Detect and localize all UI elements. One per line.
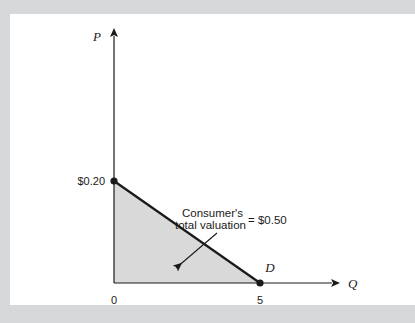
y-tick-label-0: $0.20: [77, 175, 105, 187]
figure-root: P Q $0.20 0 5 D Consumer's total valuati…: [0, 0, 415, 323]
x-axis-label: Q: [348, 276, 358, 291]
economics-demand-chart: P Q $0.20 0 5 D Consumer's total valuati…: [10, 14, 415, 305]
data-point-price-intercept: [110, 177, 117, 184]
annotation-line-2: total valuation: [175, 219, 246, 231]
demand-curve-label: D: [264, 260, 275, 275]
x-tick-label-1: 5: [257, 294, 263, 305]
annotation-line-1: Consumer's: [182, 207, 243, 219]
x-tick-label-0: 0: [111, 294, 117, 305]
chart-plot-panel: P Q $0.20 0 5 D Consumer's total valuati…: [10, 14, 415, 305]
data-point-quantity-intercept: [256, 279, 263, 286]
y-axis-label: P: [92, 29, 101, 44]
annotation-equals-value: = $0.50: [248, 214, 287, 226]
